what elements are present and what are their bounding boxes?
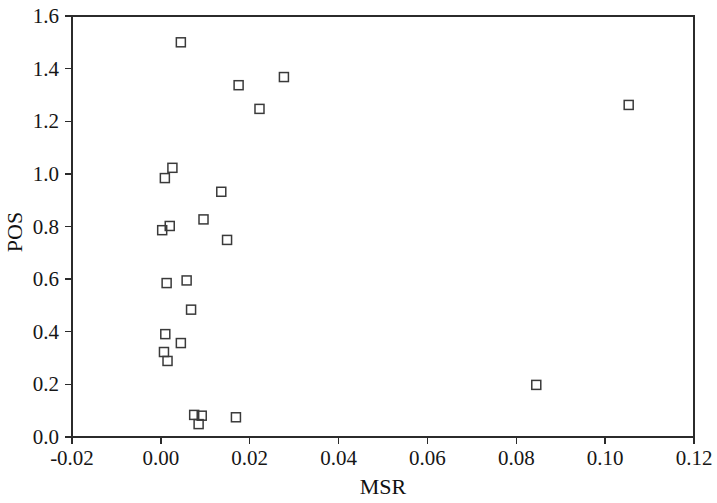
data-point [223, 235, 232, 244]
x-tick-label: 0.04 [320, 446, 357, 470]
x-axis-title: MSR [360, 474, 407, 499]
y-tick-label: 1.2 [33, 109, 59, 133]
data-point [231, 413, 240, 422]
data-point [199, 215, 208, 224]
data-point [159, 348, 168, 357]
x-tick-label: 0.06 [409, 446, 446, 470]
x-tick-label: 0.10 [587, 446, 624, 470]
data-point [161, 330, 170, 339]
y-axis-tick-labels: 0.00.20.40.60.81.01.21.41.6 [33, 4, 60, 449]
data-point [279, 73, 288, 82]
data-point [182, 276, 191, 285]
data-point [255, 104, 264, 113]
x-tick-label: 0.02 [231, 446, 268, 470]
y-tick-label: 0.8 [33, 215, 59, 239]
y-tick-label: 0.6 [33, 267, 59, 291]
y-tick-label: 1.4 [33, 57, 60, 81]
y-tick-label: 0.2 [33, 372, 59, 396]
data-point [160, 174, 169, 183]
data-point [187, 305, 196, 314]
data-point [168, 163, 177, 172]
data-point [624, 100, 633, 109]
data-point-markers [158, 38, 634, 429]
data-point [176, 339, 185, 348]
data-point [532, 380, 541, 389]
data-point [176, 38, 185, 47]
x-tick-label: 0.08 [498, 446, 535, 470]
data-point [217, 187, 226, 196]
data-point [234, 81, 243, 90]
scatter-plot-figure: -0.020.000.020.040.060.080.100.12 0.00.2… [0, 0, 717, 503]
y-tick-label: 1.0 [33, 162, 59, 186]
y-tick-label: 0.4 [33, 320, 60, 344]
x-axis-ticks [72, 437, 694, 444]
y-axis-title: POS [2, 212, 27, 252]
x-tick-label: 0.12 [676, 446, 713, 470]
x-tick-label: 0.00 [142, 446, 179, 470]
x-tick-label: -0.02 [50, 446, 94, 470]
y-tick-label: 0.0 [33, 425, 59, 449]
plot-canvas: -0.020.000.020.040.060.080.100.12 0.00.2… [0, 0, 717, 503]
data-point [162, 279, 171, 288]
x-axis-tick-labels: -0.020.000.020.040.060.080.100.12 [50, 446, 712, 470]
y-tick-label: 1.6 [33, 4, 59, 28]
y-axis-ticks [65, 16, 72, 437]
data-point [163, 356, 172, 365]
data-point [194, 420, 203, 429]
